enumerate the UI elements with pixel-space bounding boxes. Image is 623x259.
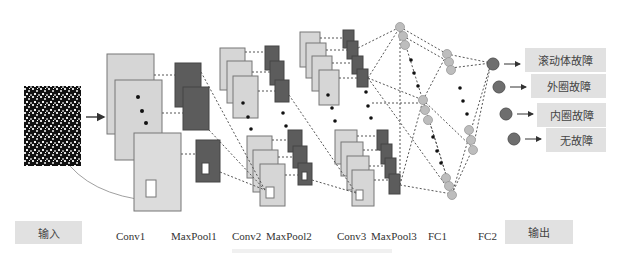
layer-label-conv3: Conv3 xyxy=(337,230,366,242)
output-label-box: 输出 xyxy=(505,220,573,244)
cnn-architecture-diagram: 输入 输出 滚动体故障 外圈故障 内圈故障 无故障 Conv1 MaxPool1… xyxy=(0,0,623,259)
fc2-nodes xyxy=(487,58,520,145)
input-label-box: 输入 xyxy=(15,221,82,244)
output-class-outer-race-fault: 外圈故障 xyxy=(531,74,606,98)
layer-label-maxpool2: MaxPool2 xyxy=(266,230,312,242)
output-class-no-fault: 无故障 xyxy=(546,128,606,152)
layer-label-conv2: Conv2 xyxy=(232,230,261,242)
layer-label-fc2: FC2 xyxy=(478,230,497,242)
conv1-maps xyxy=(107,54,181,211)
layer-label-conv1: Conv1 xyxy=(116,230,145,242)
output-class-inner-race-fault: 内圈故障 xyxy=(537,103,606,127)
faint-caption xyxy=(232,249,392,253)
layer-label-fc1: FC1 xyxy=(428,230,447,242)
input-image xyxy=(24,86,81,166)
output-class-rolling-element-fault: 滚动体故障 xyxy=(525,48,606,72)
layer-label-maxpool1: MaxPool1 xyxy=(171,230,217,242)
layer-label-maxpool3: MaxPool3 xyxy=(371,230,417,242)
maxpool1-maps xyxy=(175,63,220,182)
